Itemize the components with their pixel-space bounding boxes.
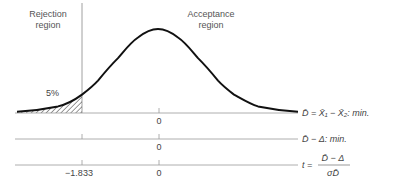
acceptance-region-label-line1: Acceptance (187, 9, 234, 19)
tick-label-critical: −1.833 (65, 168, 93, 178)
tick-label-zero-1: 0 (156, 116, 161, 126)
rejection-region-label-line1: Rejection (29, 9, 67, 19)
rejection-area-percent: 5% (46, 88, 59, 98)
axis-label-difference: D̄ = X̄₁ − X̄₂: min. (302, 108, 369, 118)
rejection-region-label-line2: region (35, 20, 60, 30)
tick-label-zero-3: 0 (156, 168, 161, 178)
t-distribution-chart: Rejection region Acceptance region 5% 0 … (0, 0, 394, 188)
axis-label-t-denominator: σD̄ (327, 168, 339, 178)
tick-label-zero-2: 0 (156, 142, 161, 152)
axis-label-t-prefix: t = (302, 160, 312, 170)
distribution-curve (17, 29, 298, 112)
axis-label-difference-minus-delta: D̄ − Δ: min. (302, 134, 347, 144)
acceptance-region-label-line2: region (198, 20, 223, 30)
axis-label-t-numerator: D̄ − Δ (322, 153, 345, 163)
